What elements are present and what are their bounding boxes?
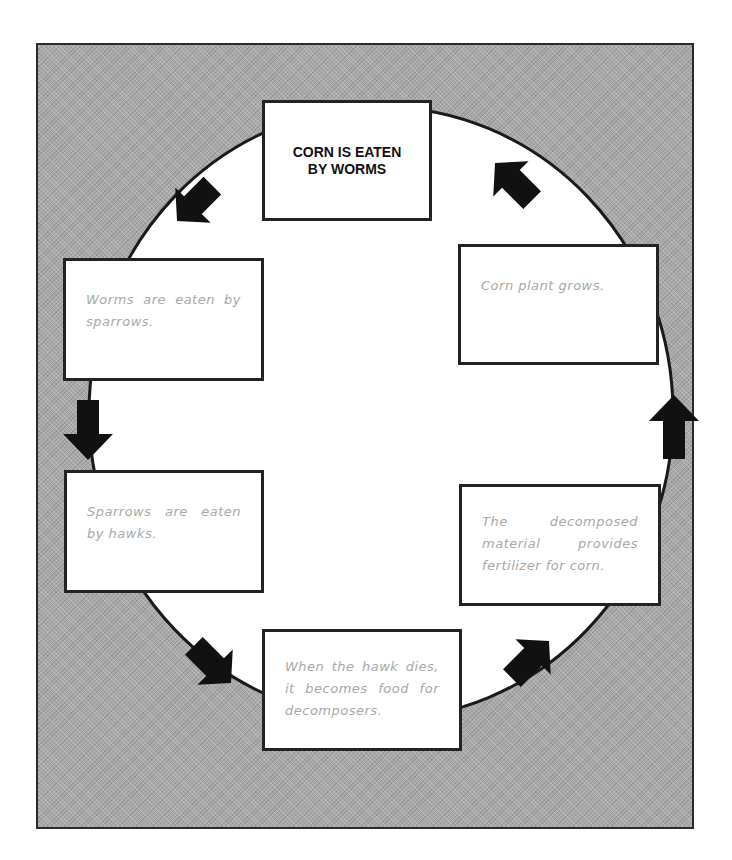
node-text: The decomposed material provides fertili… [482, 511, 638, 577]
node-corn-grows: Corn plant grows. [458, 244, 659, 365]
node-text: Sparrows are eaten by hawks. [87, 501, 241, 545]
node-sparrows-eaten: Sparrows are eaten by hawks. [64, 470, 264, 593]
node-fertilizer: The decomposed material provides fertili… [459, 484, 661, 606]
node-hawk-dies: When the hawk dies, it becomes food for … [262, 629, 462, 751]
node-title-text: CORN IS EATEN BY WORMS [287, 144, 407, 178]
node-text: When the hawk dies, it becomes food for … [285, 656, 439, 722]
node-text: Worms are eaten by sparrows. [86, 289, 241, 333]
node-corn-eaten: CORN IS EATEN BY WORMS [262, 100, 432, 221]
node-worms-eaten: Worms are eaten by sparrows. [63, 258, 264, 381]
node-text: Corn plant grows. [481, 275, 636, 297]
